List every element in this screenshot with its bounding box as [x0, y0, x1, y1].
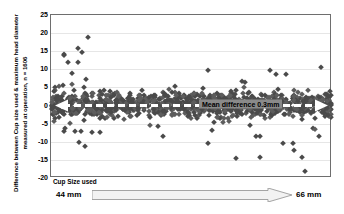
y-tick-0: 0: [26, 101, 48, 108]
cup-size-min-label: 44 mm: [56, 190, 81, 199]
y-tick-15: 15: [26, 47, 48, 54]
y-tick-neg15: -15: [26, 155, 48, 162]
mean-difference-label: Mean difference 0.3mm: [199, 100, 282, 109]
y-tick-neg5: -5: [26, 119, 48, 126]
mean-difference-arrow: [51, 15, 332, 178]
y-tick-10: 10: [26, 65, 48, 72]
plot-area: Mean difference 0.3mm: [50, 14, 331, 177]
y-tick-5: 5: [26, 83, 48, 90]
x-axis-title: Cup Size used: [53, 178, 97, 185]
y-tick-neg20: -20: [26, 174, 48, 181]
y-tick-neg10: -10: [26, 137, 48, 144]
y-axis-tick-labels: 25 20 15 10 5 0 -5 -10 -15 -20: [24, 0, 48, 214]
right-arrow-icon: [92, 188, 292, 202]
cup-size-max-label: 66 mm: [296, 190, 321, 199]
scatter-chart-figure: Difference between Cup size used & maxim…: [0, 0, 344, 214]
y-tick-20: 20: [26, 29, 48, 36]
y-tick-25: 25: [26, 11, 48, 18]
